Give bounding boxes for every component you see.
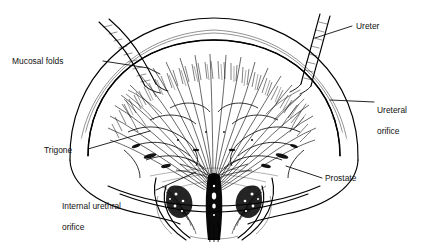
label-mucosal-folds: Mucosal folds xyxy=(12,56,63,66)
label-ureteral-orifice-line2: orifice xyxy=(377,126,407,136)
leader-ureter xyxy=(315,26,352,38)
label-prostate: Prostate xyxy=(325,173,356,183)
prostate-gland xyxy=(154,159,273,242)
bladder-anatomy-figure: Mucosal folds Ureter Ureteral orifice Tr… xyxy=(0,0,428,246)
leader-prostate xyxy=(286,166,322,178)
label-internal-urethral-orifice: Internal urethral orifice xyxy=(62,191,121,243)
label-ureteral-orifice: Ureteral orifice xyxy=(377,95,407,147)
bladder-cut-rim xyxy=(88,40,340,156)
label-internal-urethral-orifice-line1: Internal urethral xyxy=(62,201,121,211)
label-internal-urethral-orifice-line2: orifice xyxy=(62,222,121,232)
label-trigone: Trigone xyxy=(44,145,72,155)
leader-trigone xyxy=(88,131,150,149)
leader-ureteral-orifice xyxy=(330,100,374,102)
label-ureteral-orifice-line1: Ureteral xyxy=(377,105,407,115)
label-ureter: Ureter xyxy=(356,21,379,31)
